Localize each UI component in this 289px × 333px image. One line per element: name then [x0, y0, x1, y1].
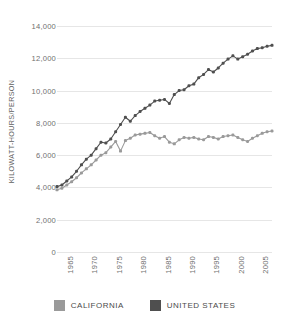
data-point-marker	[168, 141, 171, 144]
data-point-marker	[241, 138, 244, 141]
y-tick-label: 2,000	[10, 215, 56, 224]
data-point-marker	[119, 150, 122, 153]
y-tick-label: 0	[10, 248, 56, 257]
data-point-marker	[70, 175, 73, 178]
data-point-marker	[104, 142, 107, 145]
data-point-marker	[124, 139, 127, 142]
data-point-marker	[173, 93, 176, 96]
data-point-marker	[217, 138, 220, 141]
data-point-marker	[70, 180, 73, 183]
data-point-marker	[114, 140, 117, 143]
data-point-marker	[227, 134, 230, 137]
x-tick-label: 1995	[212, 256, 221, 274]
x-axis-ticks: 196519701975198019851990199520002005	[57, 252, 272, 298]
data-point-marker	[99, 141, 102, 144]
data-point-marker	[202, 138, 205, 141]
data-point-marker	[187, 84, 190, 87]
x-tick-label: 2005	[261, 256, 270, 274]
data-point-marker	[65, 184, 68, 187]
data-point-marker	[95, 158, 98, 161]
data-point-marker	[217, 66, 220, 69]
data-point-marker	[207, 68, 210, 71]
data-point-marker	[192, 136, 195, 139]
chart-legend: CALIFORNIAUNITED STATES	[0, 300, 289, 311]
data-point-marker	[143, 107, 146, 110]
data-point-marker	[153, 134, 156, 137]
line-chart: KILOWATT-HOURS/PERSON 14,00012,00010,000…	[0, 0, 289, 333]
data-point-marker	[173, 142, 176, 145]
legend-item[interactable]: CALIFORNIA	[54, 300, 124, 311]
data-point-marker	[197, 138, 200, 141]
data-point-marker	[99, 154, 102, 157]
data-point-marker	[158, 137, 161, 140]
data-point-marker	[153, 100, 156, 103]
series-line	[57, 131, 272, 190]
y-tick-label: 14,000	[10, 22, 56, 31]
data-point-marker	[134, 133, 137, 136]
data-point-marker	[251, 50, 254, 53]
data-point-marker	[266, 130, 269, 133]
data-point-marker	[212, 136, 215, 139]
data-point-marker	[266, 45, 269, 48]
plot-area	[57, 26, 272, 252]
data-point-marker	[183, 88, 186, 91]
data-point-marker	[119, 123, 122, 126]
data-point-marker	[109, 146, 112, 149]
legend-swatch-icon	[54, 300, 65, 311]
x-tick-label: 1970	[90, 256, 99, 274]
legend-swatch-icon	[150, 300, 161, 311]
y-axis-title-text: KILOWATT-HOURS/PERSON	[8, 79, 17, 183]
legend-label: CALIFORNIA	[71, 301, 124, 310]
data-point-marker	[56, 185, 59, 188]
series-california	[56, 129, 274, 191]
x-tick-label: 1975	[115, 256, 124, 274]
data-point-marker	[75, 170, 78, 173]
data-point-marker	[158, 99, 161, 102]
data-point-marker	[222, 62, 225, 65]
gridline	[57, 252, 272, 253]
data-point-marker	[129, 120, 132, 123]
data-point-marker	[80, 163, 83, 166]
data-point-marker	[104, 151, 107, 154]
y-tick-label: 12,000	[10, 54, 56, 63]
data-point-marker	[271, 129, 274, 132]
data-point-marker	[134, 114, 137, 117]
x-tick-label: 1985	[164, 256, 173, 274]
data-point-marker	[236, 58, 239, 61]
data-point-marker	[271, 44, 274, 47]
y-axis-title: KILOWATT-HOURS/PERSON	[0, 0, 24, 262]
data-point-marker	[241, 55, 244, 58]
data-point-marker	[168, 102, 171, 105]
legend-item[interactable]: UNITED STATES	[150, 300, 235, 311]
data-point-marker	[129, 137, 132, 140]
data-point-marker	[246, 140, 249, 143]
data-point-marker	[60, 187, 63, 190]
data-point-marker	[56, 188, 59, 191]
data-point-marker	[65, 179, 68, 182]
data-point-marker	[231, 133, 234, 136]
data-point-marker	[178, 138, 181, 141]
data-point-marker	[90, 154, 93, 157]
data-point-marker	[187, 137, 190, 140]
data-point-marker	[236, 136, 239, 139]
data-point-marker	[60, 184, 63, 187]
legend-label: UNITED STATES	[167, 301, 235, 310]
data-point-marker	[85, 158, 88, 161]
data-point-marker	[202, 73, 205, 76]
data-point-marker	[75, 176, 78, 179]
x-tick-label: 2000	[237, 256, 246, 274]
data-point-marker	[256, 47, 259, 50]
data-point-marker	[80, 171, 83, 174]
data-point-marker	[143, 132, 146, 135]
data-point-marker	[163, 135, 166, 138]
data-point-marker	[197, 76, 200, 79]
y-tick-label: 8,000	[10, 118, 56, 127]
data-point-marker	[231, 54, 234, 57]
data-point-marker	[207, 135, 210, 138]
data-point-marker	[85, 167, 88, 170]
data-point-marker	[163, 98, 166, 101]
data-point-marker	[261, 46, 264, 49]
data-point-marker	[183, 136, 186, 139]
series-line	[57, 45, 272, 186]
x-tick-label: 1990	[188, 256, 197, 274]
